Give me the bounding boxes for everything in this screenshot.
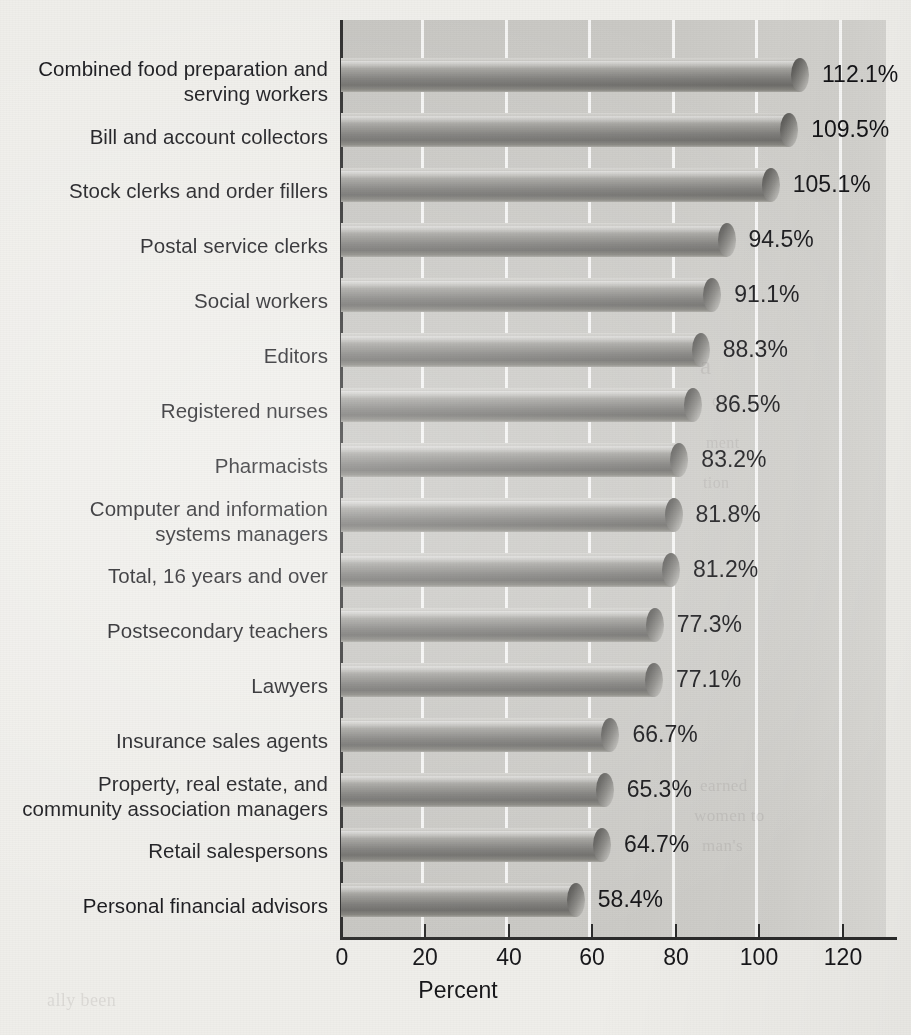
bar-body — [341, 773, 605, 807]
category-label-15: Personal financial advisors — [83, 893, 328, 918]
bar-end-cap — [762, 168, 780, 202]
bar-body — [341, 333, 701, 367]
ghost-text: ment — [706, 434, 740, 452]
bar-body — [341, 828, 602, 862]
category-label-8: Computer and information systems manager… — [90, 496, 328, 546]
bar-end-cap — [665, 498, 683, 532]
category-label-13: Property, real estate, and community ass… — [22, 771, 328, 821]
x-tick-100 — [758, 924, 760, 937]
x-tick-label-40: 40 — [496, 944, 522, 971]
bar-end-cap — [645, 663, 663, 697]
bar-2: 105.1% — [341, 168, 780, 202]
bar-value-label: 81.2% — [693, 556, 758, 583]
category-label-1: Bill and account collectors — [90, 124, 328, 149]
bar-3: 94.5% — [341, 223, 736, 257]
bar-end-cap — [662, 553, 680, 587]
bar-chart: a of ment tion earned women to man's all… — [0, 0, 911, 1035]
x-axis-title-text: Percent — [418, 977, 497, 1003]
bar-0: 112.1% — [341, 58, 809, 92]
bar-value-label: 64.7% — [624, 831, 689, 858]
category-label-10: Postsecondary teachers — [107, 618, 328, 643]
ghost-text: ally been — [47, 990, 116, 1011]
bar-body — [341, 663, 654, 697]
bar-end-cap — [567, 883, 585, 917]
bar-value-label: 112.1% — [822, 61, 898, 88]
bar-body — [341, 883, 576, 917]
category-label-2: Stock clerks and order fillers — [69, 178, 328, 203]
bar-1: 109.5% — [341, 113, 798, 147]
bar-body — [341, 498, 674, 532]
x-tick-label-0: 0 — [336, 944, 349, 971]
ghost-text: earned — [700, 776, 748, 796]
category-label-9: Total, 16 years and over — [108, 563, 328, 588]
bar-value-label: 81.8% — [696, 501, 761, 528]
bar-value-label: 66.7% — [632, 721, 697, 748]
x-tick-label-20: 20 — [412, 944, 438, 971]
x-tick-label-120: 120 — [824, 944, 862, 971]
bar-body — [341, 223, 727, 257]
bar-6: 86.5% — [341, 388, 702, 422]
bar-body — [341, 718, 610, 752]
category-label-5: Editors — [264, 343, 328, 368]
bar-value-label: 77.1% — [676, 666, 741, 693]
bar-end-cap — [780, 113, 798, 147]
gridline-120 — [839, 20, 842, 938]
bar-12: 66.7% — [341, 718, 619, 752]
gridline-100 — [755, 20, 758, 938]
x-axis-title: Percent — [0, 977, 911, 1004]
category-label-7: Pharmacists — [215, 453, 328, 478]
x-tick-0 — [341, 924, 343, 937]
bar-body — [341, 608, 655, 642]
bar-14: 64.7% — [341, 828, 611, 862]
bar-body — [341, 168, 771, 202]
bar-end-cap — [601, 718, 619, 752]
x-tick-20 — [424, 924, 426, 937]
bar-value-label: 88.3% — [723, 336, 788, 363]
bar-end-cap — [718, 223, 736, 257]
ghost-text: man's — [702, 836, 743, 856]
bar-end-cap — [596, 773, 614, 807]
category-label-14: Retail salespersons — [148, 838, 328, 863]
ghost-text: tion — [703, 474, 730, 492]
bar-value-label: 91.1% — [734, 281, 799, 308]
bar-5: 88.3% — [341, 333, 710, 367]
bar-4: 91.1% — [341, 278, 721, 312]
bar-10: 77.3% — [341, 608, 664, 642]
bar-value-label: 65.3% — [627, 776, 692, 803]
category-label-3: Postal service clerks — [140, 233, 328, 258]
bar-value-label: 94.5% — [749, 226, 814, 253]
ghost-text: of — [712, 392, 726, 410]
category-label-11: Lawyers — [251, 673, 328, 698]
bar-9: 81.2% — [341, 553, 680, 587]
bar-15: 58.4% — [341, 883, 585, 917]
bar-body — [341, 58, 800, 92]
x-tick-label-80: 80 — [663, 944, 689, 971]
ghost-text: women to — [694, 806, 765, 826]
bar-end-cap — [791, 58, 809, 92]
bar-value-label: 58.4% — [598, 886, 663, 913]
bar-8: 81.8% — [341, 498, 683, 532]
x-tick-40 — [508, 924, 510, 937]
x-tick-60 — [591, 924, 593, 937]
bar-body — [341, 443, 679, 477]
x-tick-120 — [842, 924, 844, 937]
bar-7: 83.2% — [341, 443, 688, 477]
bar-body — [341, 388, 693, 422]
x-tick-label-60: 60 — [579, 944, 605, 971]
bar-value-label: 109.5% — [811, 116, 889, 143]
bar-body — [341, 113, 789, 147]
bar-11: 77.1% — [341, 663, 663, 697]
bar-13: 65.3% — [341, 773, 614, 807]
x-tick-label-100: 100 — [740, 944, 778, 971]
bar-end-cap — [593, 828, 611, 862]
bar-end-cap — [670, 443, 688, 477]
bar-value-label: 77.3% — [677, 611, 742, 638]
category-label-4: Social workers — [194, 288, 328, 313]
bar-body — [341, 553, 671, 587]
category-label-0: Combined food preparation and serving wo… — [38, 56, 328, 106]
bar-end-cap — [646, 608, 664, 642]
x-tick-80 — [675, 924, 677, 937]
x-axis-line — [340, 937, 897, 940]
bar-end-cap — [703, 278, 721, 312]
category-label-12: Insurance sales agents — [116, 728, 328, 753]
